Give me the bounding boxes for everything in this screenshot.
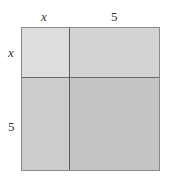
vertical-divider — [69, 28, 70, 170]
region-x-by-5 — [69, 28, 159, 77]
area-model-square — [21, 27, 160, 171]
horizontal-divider — [22, 77, 159, 78]
side-label-x: x — [8, 46, 14, 59]
region-5-by-5 — [69, 77, 159, 170]
top-label-5: 5 — [111, 10, 118, 23]
side-label-5: 5 — [8, 120, 15, 133]
region-x-by-x — [22, 28, 69, 77]
top-label-x: x — [41, 10, 47, 23]
region-5-by-x — [22, 77, 69, 170]
